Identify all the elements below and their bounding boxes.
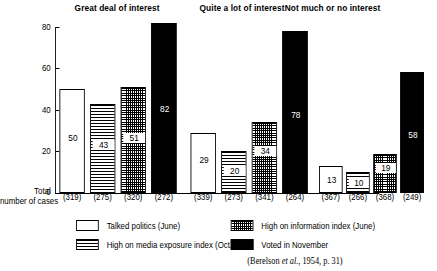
bar-value-g3-information-index: 19 [376,163,396,173]
source-suffix: , 1954, p. 31) [298,256,342,266]
case-count-g3-voted-november: (249) [394,192,430,202]
bar-g3-information-index [373,154,397,193]
bar-value-g2-talked-politics: 29 [191,155,218,165]
bar-value-g2-media-exposure: 20 [224,166,246,176]
bar-value-g1-media-exposure: 43 [93,140,115,150]
legend-label-voted-november: Voted in November [261,240,328,250]
bar-g2-information-index [252,122,277,193]
bar-value-g3-talked-politics: 13 [319,175,344,185]
y-tick-label-60: 60 [30,63,51,73]
legend-swatch-media-exposure [76,239,99,250]
y-tick-label-20: 20 [30,146,51,156]
source-citation: (Berelson et al., 1954, p. 31) [247,256,342,266]
legend-label-talked-politics: Talked politics (June) [107,221,180,231]
y-tick-label-40: 40 [30,105,51,115]
bar-value-g1-information-index: 51 [123,133,145,143]
case-count-g1-voted-november: (272) [146,192,182,202]
case-count-g2-voted-november: (264) [277,192,313,202]
bar-value-g1-talked-politics: 50 [59,133,86,143]
bar-chart-figure: Great deal of interest Quite a lot of in… [0,0,437,271]
bar-value-g2-information-index: 34 [254,146,276,156]
y-tick-label-80: 80 [30,22,51,32]
bar-value-g1-voted-november: 82 [151,104,178,114]
legend-swatch-talked-politics [76,220,99,231]
total-cases-label-line1: Total [0,186,51,196]
source-prefix: (Berelson [247,256,281,266]
y-tick-60 [56,68,59,69]
bar-value-g3-media-exposure: 10 [349,178,369,188]
y-tick-80 [56,27,59,28]
bar-value-g2-voted-november: 78 [282,110,309,120]
legend-label-information-index: High on information index (June) [261,221,375,231]
bar-value-g3-voted-november: 58 [400,130,425,140]
source-italic: et al. [282,256,299,266]
legend-swatch-information-index [231,220,254,231]
legend-label-media-exposure: High on media exposure index (Oct.) [107,240,235,250]
legend-swatch-voted-november [231,239,254,250]
